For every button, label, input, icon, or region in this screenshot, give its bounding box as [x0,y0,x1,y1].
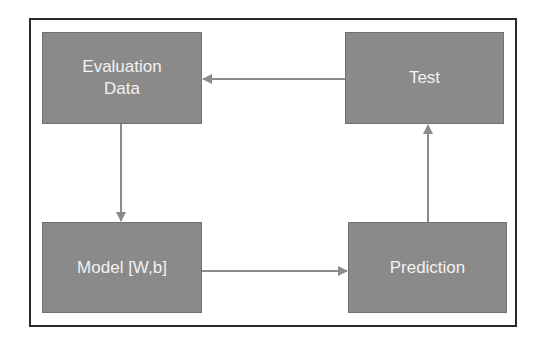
node-model: Model [W,b] [42,222,202,313]
node-label: Evaluation Data [82,56,161,100]
node-label: Test [409,67,440,89]
node-label: Model [W,b] [77,257,167,279]
node-prediction: Prediction [348,222,507,313]
node-evaluation-data: Evaluation Data [42,32,202,124]
node-test: Test [345,32,504,124]
node-label: Prediction [390,257,466,279]
